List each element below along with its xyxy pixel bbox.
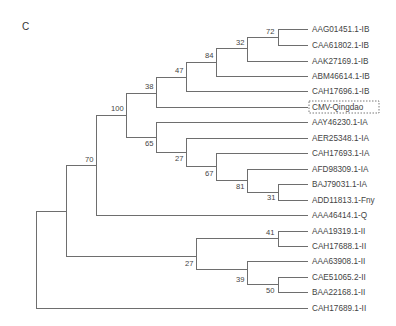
- leaf-label: ABM46614.1-IB: [312, 72, 370, 81]
- phylogenetic-tree: 701003847843272652767813127413950 AAG014…: [0, 0, 396, 326]
- bootstrap-value: 39: [236, 275, 244, 284]
- bootstrap-values: 701003847843272652767813127413950: [85, 27, 275, 295]
- leaf-label: CAE51065.2-II: [312, 273, 366, 282]
- leaf-label: AER25348.1-IA: [312, 134, 369, 143]
- leaf-label: AAK27169.1-IB: [312, 57, 369, 66]
- bootstrap-value: 84: [205, 51, 213, 60]
- leaf-label: AAA63908.1-II: [312, 257, 365, 266]
- bootstrap-value: 27: [175, 154, 183, 163]
- leaf-label: AAA19319.1-II: [312, 227, 365, 236]
- bootstrap-value: 47: [175, 66, 183, 75]
- leaf-label: BAJ79031.1-IA: [312, 180, 368, 189]
- leaf-label: CAH17696.1-IB: [312, 87, 370, 96]
- leaf-label: CAH17689.1-II: [312, 304, 366, 313]
- bootstrap-value: 50: [266, 286, 274, 295]
- bootstrap-value: 32: [236, 38, 244, 47]
- bootstrap-value: 81: [236, 182, 244, 191]
- leaf-label: CAH17688.1-II: [312, 242, 366, 251]
- leaf-label: AFD98309.1-IA: [312, 165, 369, 174]
- leaf-label: CAA61802.1-IB: [312, 41, 369, 50]
- bootstrap-value: 31: [267, 193, 275, 202]
- tree-branches: [36, 29, 308, 309]
- bootstrap-value: 38: [145, 82, 153, 91]
- bootstrap-value: 65: [145, 139, 153, 148]
- leaf-label: CMV-Qingdao: [312, 103, 364, 112]
- leaf-label: AAG01451.1-IB: [312, 25, 370, 34]
- bootstrap-value: 70: [85, 155, 93, 164]
- leaf-label: AAA46414.1-Q: [312, 211, 367, 220]
- bootstrap-value: 100: [111, 104, 124, 113]
- bootstrap-value: 27: [185, 259, 193, 268]
- leaf-label: CAH17693.1-IA: [312, 149, 370, 158]
- bootstrap-value: 41: [266, 228, 274, 237]
- leaf-label: ADD11813.1-Fny: [312, 196, 376, 205]
- bootstrap-value: 67: [205, 169, 213, 178]
- leaf-label: AAY46230.1-IA: [312, 118, 368, 127]
- leaf-labels: AAG01451.1-IBCAA61802.1-IBAAK27169.1-IBA…: [309, 25, 379, 313]
- leaf-label: BAA22168.1-II: [312, 288, 365, 297]
- bootstrap-value: 72: [266, 27, 274, 36]
